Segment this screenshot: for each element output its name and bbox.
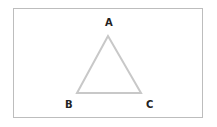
vertex-label-a: A <box>105 18 113 28</box>
vertex-label-b: B <box>65 100 73 110</box>
vertex-label-c: C <box>146 100 153 110</box>
